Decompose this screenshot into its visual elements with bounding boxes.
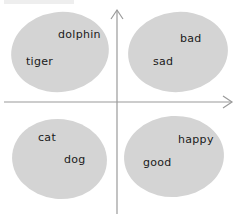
word-bad: bad xyxy=(180,32,202,45)
word-dog: dog xyxy=(64,153,86,166)
word-dolphin: dolphin xyxy=(58,28,101,41)
word-happy: happy xyxy=(178,133,214,146)
word-good: good xyxy=(143,156,172,169)
word-sad: sad xyxy=(153,55,173,68)
word-tiger: tiger xyxy=(26,55,53,68)
word-cat: cat xyxy=(38,131,56,144)
diagram-canvas: dolphin tiger bad sad cat dog happy good xyxy=(0,0,237,217)
